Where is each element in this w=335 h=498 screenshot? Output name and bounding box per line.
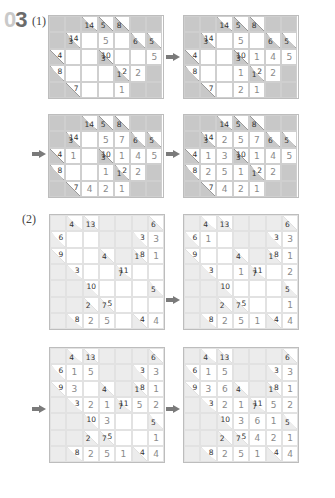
answer-cell[interactable]: 4	[148, 446, 164, 462]
answer-cell[interactable]: 5	[98, 131, 114, 147]
answer-cell[interactable]: 2	[200, 164, 216, 180]
answer-cell[interactable]: 5	[146, 49, 162, 65]
answer-cell[interactable]	[216, 49, 232, 65]
answer-cell[interactable]: 5	[233, 32, 249, 48]
answer-cell[interactable]: 5	[281, 49, 297, 65]
answer-cell[interactable]	[99, 264, 115, 280]
answer-cell[interactable]: 2	[130, 65, 146, 81]
answer-cell[interactable]: 1	[148, 381, 164, 397]
answer-cell[interactable]	[132, 264, 148, 280]
answer-cell[interactable]	[249, 32, 265, 48]
answer-cell[interactable]: 3	[200, 381, 216, 397]
answer-cell[interactable]: 5	[217, 364, 233, 380]
answer-cell[interactable]	[217, 264, 233, 280]
answer-cell[interactable]: 6	[217, 381, 233, 397]
answer-cell[interactable]	[66, 248, 82, 264]
answer-cell[interactable]	[81, 32, 97, 48]
answer-cell[interactable]	[216, 82, 232, 98]
answer-cell[interactable]	[266, 280, 282, 296]
answer-cell[interactable]: 5	[266, 397, 282, 413]
answer-cell[interactable]: 7	[249, 131, 265, 147]
answer-cell[interactable]: 4	[216, 181, 232, 197]
answer-cell[interactable]: 3	[66, 381, 82, 397]
answer-cell[interactable]: 1	[99, 397, 115, 413]
answer-cell[interactable]: 5	[281, 148, 297, 164]
answer-cell[interactable]: 2	[217, 397, 233, 413]
answer-cell[interactable]: 6	[249, 413, 265, 429]
answer-cell[interactable]: 1	[233, 65, 249, 81]
answer-cell[interactable]	[132, 280, 148, 296]
answer-cell[interactable]: 1	[249, 313, 265, 329]
answer-cell[interactable]	[65, 49, 81, 65]
answer-cell[interactable]	[130, 49, 146, 65]
answer-cell[interactable]: 4	[81, 181, 97, 197]
answer-cell[interactable]	[115, 280, 131, 296]
answer-cell[interactable]: 3	[216, 148, 232, 164]
answer-cell[interactable]	[148, 297, 164, 313]
answer-cell[interactable]: 2	[282, 264, 298, 280]
answer-cell[interactable]	[115, 430, 131, 446]
answer-cell[interactable]: 1	[114, 82, 130, 98]
answer-cell[interactable]	[266, 297, 282, 313]
answer-cell[interactable]: 5	[83, 364, 99, 380]
answer-cell[interactable]: 4	[148, 313, 164, 329]
answer-cell[interactable]: 2	[233, 82, 249, 98]
answer-cell[interactable]: 2	[282, 397, 298, 413]
answer-cell[interactable]	[66, 231, 82, 247]
answer-cell[interactable]: 2	[83, 397, 99, 413]
answer-cell[interactable]	[216, 32, 232, 48]
answer-cell[interactable]: 1	[266, 413, 282, 429]
answer-cell[interactable]	[249, 280, 265, 296]
answer-cell[interactable]: 2	[217, 313, 233, 329]
answer-cell[interactable]	[148, 264, 164, 280]
answer-cell[interactable]: 4	[282, 313, 298, 329]
answer-cell[interactable]: 3	[282, 364, 298, 380]
answer-cell[interactable]	[99, 280, 115, 296]
answer-cell[interactable]: 3	[148, 231, 164, 247]
answer-cell[interactable]: 1	[148, 248, 164, 264]
answer-cell[interactable]	[81, 82, 97, 98]
answer-cell[interactable]: 5	[233, 313, 249, 329]
answer-cell[interactable]: 1	[249, 181, 265, 197]
answer-cell[interactable]: 4	[282, 446, 298, 462]
answer-cell[interactable]	[115, 313, 131, 329]
answer-cell[interactable]: 4	[265, 49, 281, 65]
answer-cell[interactable]	[81, 49, 97, 65]
answer-cell[interactable]: 4	[249, 430, 265, 446]
answer-cell[interactable]	[81, 164, 97, 180]
answer-cell[interactable]	[216, 65, 232, 81]
answer-cell[interactable]	[249, 297, 265, 313]
answer-cell[interactable]: 4	[265, 148, 281, 164]
answer-cell[interactable]	[83, 381, 99, 397]
answer-cell[interactable]	[81, 131, 97, 147]
answer-cell[interactable]	[266, 264, 282, 280]
answer-cell[interactable]	[83, 248, 99, 264]
answer-cell[interactable]: 1	[200, 148, 216, 164]
answer-cell[interactable]: 1	[114, 148, 130, 164]
answer-cell[interactable]: 1	[249, 148, 265, 164]
answer-cell[interactable]: 5	[216, 164, 232, 180]
answer-cell[interactable]	[114, 49, 130, 65]
answer-cell[interactable]	[83, 231, 99, 247]
answer-cell[interactable]: 5	[99, 446, 115, 462]
answer-cell[interactable]: 1	[114, 181, 130, 197]
answer-cell[interactable]	[115, 297, 131, 313]
answer-cell[interactable]: 2	[98, 181, 114, 197]
answer-cell[interactable]: 2	[233, 181, 249, 197]
answer-cell[interactable]: 3	[148, 364, 164, 380]
answer-cell[interactable]: 2	[148, 397, 164, 413]
answer-cell[interactable]	[217, 248, 233, 264]
answer-cell[interactable]: 1	[200, 231, 216, 247]
answer-cell[interactable]: 1	[66, 364, 82, 380]
answer-cell[interactable]	[114, 32, 130, 48]
answer-cell[interactable]: 2	[130, 164, 146, 180]
answer-cell[interactable]	[98, 65, 114, 81]
answer-cell[interactable]: 5	[98, 32, 114, 48]
answer-cell[interactable]: 5	[132, 397, 148, 413]
answer-cell[interactable]: 1	[115, 446, 131, 462]
answer-cell[interactable]	[217, 231, 233, 247]
answer-cell[interactable]: 1	[65, 148, 81, 164]
answer-cell[interactable]: 1	[282, 297, 298, 313]
answer-cell[interactable]: 1	[282, 430, 298, 446]
answer-cell[interactable]	[65, 164, 81, 180]
